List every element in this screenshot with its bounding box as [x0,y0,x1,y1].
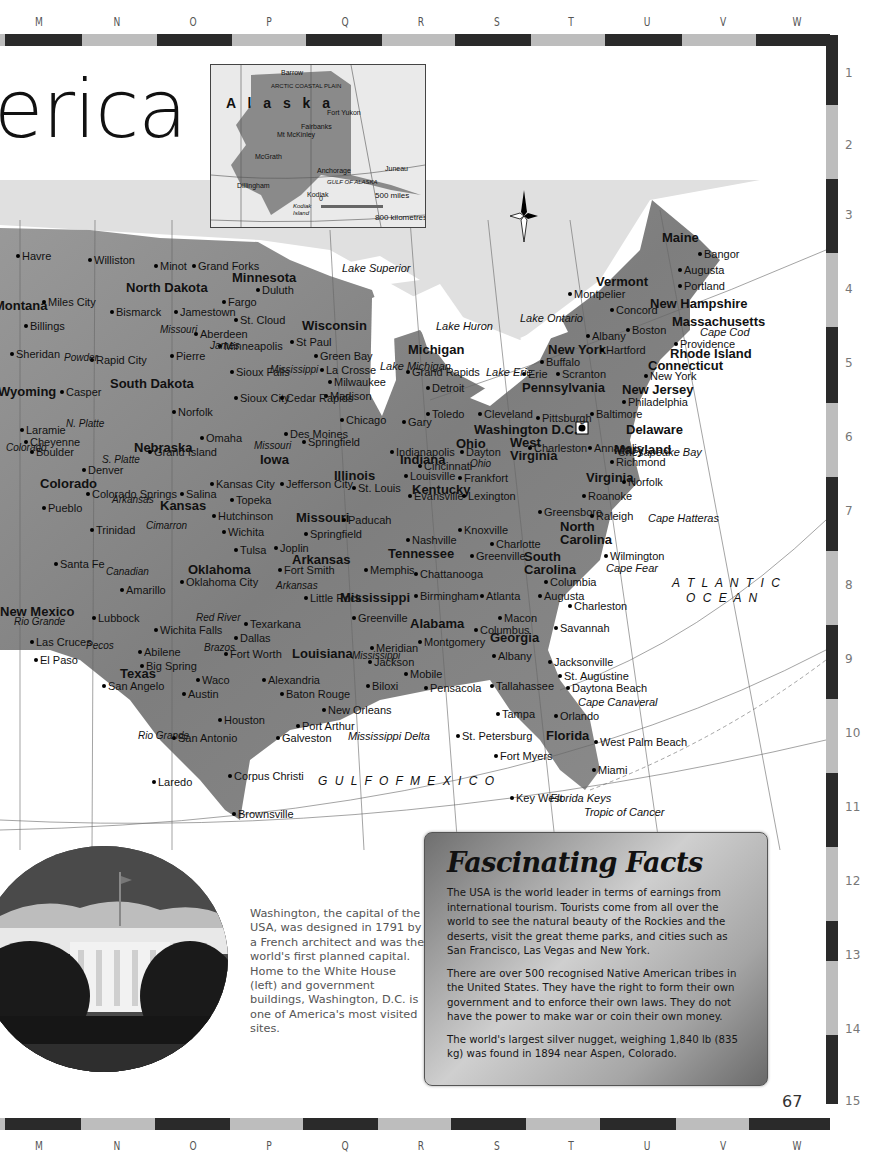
river-label: Colorado [6,442,47,453]
page-number: 67 [782,1092,802,1111]
city-dot-icon [228,774,232,778]
row-label: 8 [845,578,853,592]
state-label: New Hampshire [650,296,748,311]
city-label: Cleveland [484,408,533,420]
city-dot-icon [54,562,58,566]
city-label: Billings [30,320,65,332]
city-label: Pittsburgh [542,412,592,424]
city-dot-icon [402,420,406,424]
city-label: Omaha [206,432,242,444]
city-label: Gary [408,416,432,428]
state-label: Michigan [408,342,464,357]
city-label: Greenville [476,550,526,562]
city-label: Evansville [414,490,464,502]
col-label: U [621,1138,673,1153]
city-label: Denver [88,464,123,476]
city-label: Jacksonville [554,656,613,668]
city-label: Paducah [348,514,391,526]
city-label: Atlanta [486,590,520,602]
city-dot-icon [120,588,124,592]
city-dot-icon [140,664,144,668]
state-label: Kansas [160,498,206,513]
city-label: Charleston [574,600,627,612]
city-label: Raleigh [596,510,633,522]
state-label: Pennsylvania [522,380,605,395]
city-dot-icon [626,328,630,332]
river-label: Ohio [470,458,491,469]
state-label: Oklahoma [188,562,251,577]
state-label: Louisiana [292,646,353,661]
city-label: Montgomery [424,636,485,648]
ocean-label: G U L F O F M E X I C O [318,774,496,788]
city-label: Baltimore [596,408,642,420]
city-dot-icon [426,386,430,390]
city-dot-icon [110,310,114,314]
city-dot-icon [418,640,422,644]
city-label: Norfolk [178,406,213,418]
water-feature-label: Lake Huron [436,320,493,332]
city-dot-icon [610,308,614,312]
city-dot-icon [490,684,494,688]
col-label: Q [319,14,371,29]
city-label: Scranton [562,368,606,380]
city-label: Kansas City [216,478,275,490]
city-label: Joplin [280,542,309,554]
state-label: Tennessee [388,546,454,561]
state-label: Wisconsin [302,318,367,333]
facts-heading: Fascinating Facts [447,847,767,878]
city-label: Baton Rouge [286,688,350,700]
col-label: P [243,1138,295,1153]
state-label: Vermont [596,274,648,289]
city-dot-icon [232,812,236,816]
city-label: Indianapolis [396,446,455,458]
city-label: New York [650,370,696,382]
ocean-label: A T L A N T I C [672,576,782,590]
city-dot-icon [256,288,260,292]
row-label: 7 [845,504,853,518]
city-label: Norfolk [628,476,663,488]
city-label: Birmingham [420,590,479,602]
water-feature-label: Cape Cod [700,326,750,338]
river-label: James [210,340,239,351]
scale-miles: 500 miles [375,191,409,200]
city-label: Memphis [370,564,415,576]
city-label: Springfield [310,528,362,540]
column-letters-bottom: M N O P Q R S T U V W [0,1138,830,1158]
city-label: Green Bay [320,350,373,362]
place-label: Anchorage [317,167,351,174]
city-label: Springfield [308,436,360,448]
city-label: Columbus [480,624,530,636]
water-feature-label: Lake Ontario [520,312,583,324]
col-label: V [697,14,749,29]
city-dot-icon [554,626,558,630]
city-dot-icon [230,370,234,374]
river-label: Missouri [254,440,291,451]
city-dot-icon [544,580,548,584]
city-dot-icon [180,492,184,496]
city-dot-icon [404,672,408,676]
white-house-illustration [0,846,228,1072]
water-feature-label: Chesapeake Bay [618,446,702,458]
city-label: Philadelphia [628,396,688,408]
city-dot-icon [296,724,300,728]
city-dot-icon [510,796,514,800]
col-label: O [167,14,219,29]
state-label: New Jersey [622,382,694,397]
city-label: Williston [94,254,135,266]
city-label: Wichita Falls [160,624,222,636]
city-label: Louisville [410,470,455,482]
photo-caption: Washington, the capital of the USA, was … [250,907,425,1037]
city-dot-icon [210,482,214,486]
city-label: La Crosse [326,364,376,376]
city-label: Sheridan [16,348,60,360]
city-dot-icon [590,412,594,416]
compass-rose-icon [510,190,538,242]
city-dot-icon [20,428,24,432]
city-dot-icon [16,254,20,258]
city-label: Little Rock [310,592,361,604]
city-label: Duluth [262,284,294,296]
col-label: U [621,14,673,29]
city-label: Miami [598,764,627,776]
city-label: Hutchinson [218,510,273,522]
state-label: Wyoming [0,384,56,399]
